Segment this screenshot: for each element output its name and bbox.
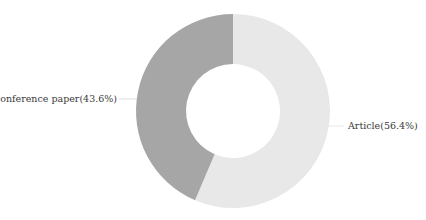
donut-chart: Conference paper(43.6%) Article(56.4%): [0, 0, 426, 220]
label-conference-paper: Conference paper(43.6%): [0, 93, 117, 104]
label-article: Article(56.4%): [347, 120, 418, 131]
donut-slices: [136, 14, 330, 208]
